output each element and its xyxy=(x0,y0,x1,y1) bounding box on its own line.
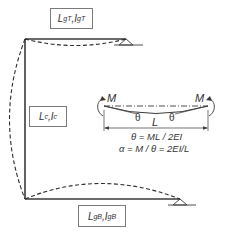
theta-tangent-left xyxy=(104,106,137,114)
bottom-pin-support-icon xyxy=(168,199,196,205)
bottom-girder-deflected xyxy=(25,184,180,200)
moment-label-left: M xyxy=(107,93,116,104)
bottom-girder-label: LgB,IgB xyxy=(78,205,126,227)
column-deflected xyxy=(10,39,26,199)
top-pin-support-icon xyxy=(114,39,143,45)
top-girder-deflected xyxy=(25,39,126,46)
frame-diagram: LgT,IgT Lc,Ic LgB,IgB M M θ θ L θ = ML /… xyxy=(0,0,229,239)
theta-label-right: θ xyxy=(169,113,175,123)
rotation-equation: θ = ML / 2EI xyxy=(131,132,182,142)
top-girder-label: LgT,IgT xyxy=(50,8,93,29)
inertia-subscript: gB xyxy=(108,213,117,220)
stiffness-equation: α = M / θ = 2EI/L xyxy=(119,144,189,154)
moment-label-right: M xyxy=(195,93,204,104)
theta-tangent-right xyxy=(175,106,208,114)
length-subscript: gT xyxy=(63,15,71,22)
inertia-subscript: c xyxy=(54,113,58,120)
column-label: Lc,Ic xyxy=(29,106,67,127)
inertia-subscript: gT xyxy=(77,15,85,22)
span-label: L xyxy=(152,117,158,128)
length-subscript: gB xyxy=(93,213,102,220)
theta-label-left: θ xyxy=(135,113,141,123)
